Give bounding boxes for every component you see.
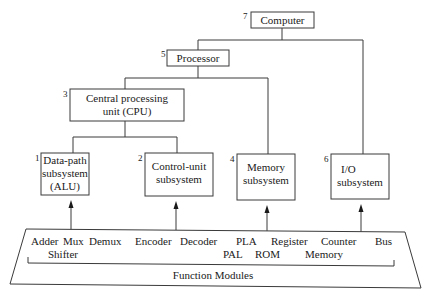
node-number: 4	[230, 154, 235, 164]
module-bus: Bus	[375, 235, 392, 247]
node-label: Processor	[177, 52, 220, 64]
module-rom: ROM	[255, 248, 280, 260]
module-adder: Adder	[31, 235, 59, 247]
node-number: 2	[138, 153, 143, 163]
node-label-line1: Data-path	[43, 154, 87, 166]
node-processor: 5 Processor	[161, 49, 229, 66]
node-label-line2: subsystem	[156, 173, 202, 185]
module-demux: Demux	[89, 235, 122, 247]
arrow-up-icon	[174, 201, 179, 209]
module-arrows	[69, 200, 364, 232]
node-label-line1: Central processing	[86, 92, 169, 104]
node-computer: 7 Computer	[243, 11, 314, 28]
module-decoder: Decoder	[180, 235, 218, 247]
module-mux: Mux	[63, 235, 84, 247]
node-datapath: 1 Data-path subsystem (ALU)	[35, 153, 89, 195]
arrow-up-icon	[265, 205, 270, 213]
node-label-line1: I/O	[341, 163, 356, 175]
computer-hierarchy-diagram: 7 Computer 5 Processor 3 Central process…	[0, 0, 425, 297]
module-register: Register	[271, 235, 308, 247]
node-number: 1	[35, 153, 40, 163]
node-label: Computer	[261, 14, 305, 26]
node-label-line1: Control-unit	[152, 160, 206, 172]
node-label-line3: (ALU)	[50, 180, 80, 193]
node-label-line1: Memory	[247, 161, 285, 173]
module-shifter: Shifter	[48, 248, 78, 260]
module-pal: PAL	[223, 248, 243, 260]
node-label-line2: subsystem	[243, 174, 289, 186]
node-control-unit: 2 Control-unit subsystem	[138, 153, 213, 196]
node-number: 5	[161, 49, 166, 59]
arrow-up-icon	[359, 204, 364, 212]
module-counter: Counter	[321, 235, 357, 247]
arrow-up-icon	[69, 200, 74, 208]
node-number: 6	[324, 154, 329, 164]
node-label-line2: subsystem	[337, 176, 383, 188]
node-memory: 4 Memory subsystem	[230, 154, 295, 200]
node-label-line2: subsystem	[42, 167, 88, 179]
node-label-line2: unit (CPU)	[103, 105, 152, 118]
node-number: 7	[243, 11, 248, 21]
node-cpu: 3 Central processing unit (CPU)	[63, 89, 184, 121]
module-encoder: Encoder	[135, 235, 172, 247]
function-modules-block: Adder Mux Demux Encoder Decoder PLA Regi…	[10, 229, 421, 288]
module-pla: PLA	[236, 235, 257, 247]
node-number: 3	[63, 89, 68, 99]
function-modules-title: Function Modules	[173, 269, 253, 281]
module-memory: Memory	[305, 248, 343, 260]
node-io: 6 I/O subsystem	[324, 154, 389, 199]
